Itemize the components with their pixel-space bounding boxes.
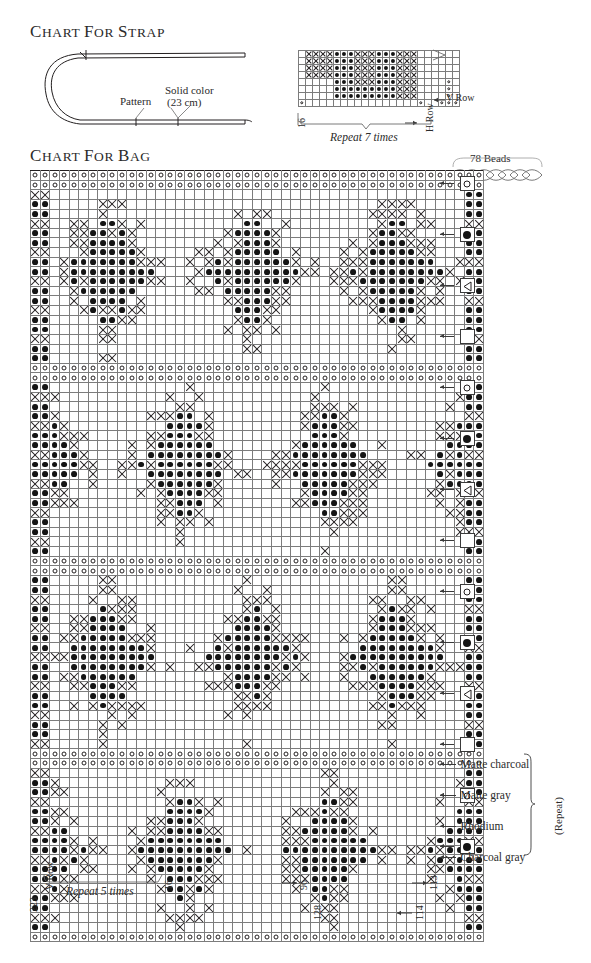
chart-cell bbox=[445, 816, 455, 826]
chart-cell bbox=[291, 913, 301, 923]
chart-cell bbox=[50, 585, 60, 595]
chart-cell bbox=[426, 662, 436, 672]
chart-cell bbox=[348, 79, 355, 86]
chart-cell bbox=[185, 190, 195, 200]
chart-cell bbox=[300, 566, 310, 576]
chart-cell bbox=[262, 296, 272, 306]
chart-cell bbox=[69, 238, 79, 248]
chart-cell bbox=[397, 595, 407, 605]
chart-cell bbox=[368, 595, 378, 605]
chart-cell bbox=[204, 257, 214, 267]
chart-cell bbox=[455, 402, 465, 412]
chart-cell bbox=[262, 199, 272, 209]
chart-cell bbox=[127, 440, 137, 450]
chart-cell bbox=[262, 257, 272, 267]
chart-cell bbox=[214, 190, 224, 200]
chart-cell bbox=[397, 546, 407, 556]
chart-cell bbox=[185, 585, 195, 595]
chart-cell bbox=[31, 450, 41, 460]
chart-cell bbox=[474, 643, 484, 653]
chart-cell bbox=[272, 286, 282, 296]
chart-cell bbox=[329, 421, 339, 431]
chart-cell bbox=[98, 431, 108, 441]
chart-cell bbox=[272, 180, 282, 190]
chart-cell bbox=[426, 431, 436, 441]
bag-chart-grid[interactable] bbox=[30, 170, 484, 942]
legend-key-open-circle[interactable] bbox=[460, 176, 475, 191]
chart-cell bbox=[329, 373, 339, 383]
chart-cell bbox=[137, 257, 147, 267]
chart-cell bbox=[272, 932, 282, 942]
legend-key-triangle[interactable] bbox=[460, 482, 475, 497]
chart-cell bbox=[358, 546, 368, 556]
chart-cell bbox=[127, 527, 137, 537]
chart-cell bbox=[137, 643, 147, 653]
legend-key-blank-square[interactable] bbox=[460, 329, 475, 344]
chart-cell bbox=[31, 334, 41, 344]
chart-cell bbox=[310, 209, 320, 219]
chart-cell bbox=[156, 759, 166, 769]
chart-cell bbox=[252, 913, 262, 923]
chart-cell bbox=[175, 460, 185, 470]
chart-cell bbox=[262, 836, 272, 846]
chart-cell bbox=[445, 325, 455, 335]
chart-cell bbox=[156, 595, 166, 605]
legend-key-blank-square[interactable] bbox=[460, 737, 475, 752]
chart-cell bbox=[127, 932, 137, 942]
legend-key-open-circle[interactable] bbox=[460, 584, 475, 599]
chart-cell bbox=[368, 778, 378, 788]
chart-cell bbox=[185, 884, 195, 894]
chart-cell bbox=[31, 315, 41, 325]
chart-cell bbox=[300, 855, 310, 865]
chart-cell bbox=[108, 354, 118, 364]
chart-cell bbox=[98, 190, 108, 200]
chart-cell bbox=[320, 209, 330, 219]
chart-grid-row bbox=[31, 797, 484, 807]
legend-key-filled-dot[interactable] bbox=[460, 635, 475, 650]
chart-cell bbox=[165, 624, 175, 634]
legend-key-arrow bbox=[440, 693, 454, 694]
chart-cell bbox=[98, 286, 108, 296]
chart-cell bbox=[358, 691, 368, 701]
chart-cell bbox=[397, 79, 404, 86]
legend-key-triangle[interactable] bbox=[460, 278, 475, 293]
chart-cell bbox=[98, 373, 108, 383]
legend-key-filled-dot[interactable] bbox=[460, 227, 475, 242]
chart-cell bbox=[40, 749, 50, 759]
chart-cell bbox=[146, 730, 156, 740]
chart-cell bbox=[378, 894, 388, 904]
chart-cell bbox=[435, 643, 445, 653]
chart-cell bbox=[69, 373, 79, 383]
chart-cell bbox=[262, 614, 272, 624]
chart-cell bbox=[69, 662, 79, 672]
chart-cell bbox=[117, 797, 127, 807]
chart-cell bbox=[368, 219, 378, 229]
legend-key-open-circle[interactable] bbox=[460, 380, 475, 395]
chart-cell bbox=[339, 209, 349, 219]
legend-key-blank-square[interactable] bbox=[460, 533, 475, 548]
chart-cell bbox=[252, 489, 262, 499]
chart-cell bbox=[464, 257, 474, 267]
chart-cell bbox=[79, 460, 89, 470]
chart-cell bbox=[98, 826, 108, 836]
chart-cell bbox=[156, 845, 166, 855]
chart-cell bbox=[59, 624, 69, 634]
chart-cell bbox=[272, 662, 282, 672]
chart-cell bbox=[300, 209, 310, 219]
legend-key-triangle[interactable] bbox=[460, 686, 475, 701]
chart-cell bbox=[406, 527, 416, 537]
triangle-icon bbox=[463, 689, 471, 699]
chart-cell bbox=[348, 51, 355, 58]
chart-cell bbox=[223, 566, 233, 576]
chart-cell bbox=[204, 286, 214, 296]
chart-cell bbox=[387, 267, 397, 277]
legend-key-filled-dot[interactable] bbox=[460, 431, 475, 446]
chart-cell bbox=[416, 305, 426, 315]
chart-cell bbox=[243, 469, 253, 479]
chart-cell bbox=[69, 614, 79, 624]
chart-cell bbox=[59, 334, 69, 344]
chart-cell bbox=[223, 518, 233, 528]
chart-cell bbox=[291, 720, 301, 730]
chart-cell bbox=[252, 286, 262, 296]
chart-cell bbox=[291, 257, 301, 267]
